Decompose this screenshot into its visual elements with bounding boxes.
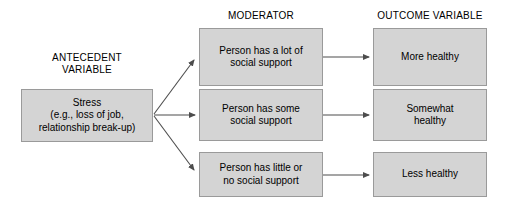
arrow-stress-to-moderator-1 bbox=[154, 60, 194, 114]
box-moderator-low-support[interactable]: Person has little or no social support bbox=[199, 152, 323, 197]
header-moderator: MODERATOR bbox=[199, 10, 323, 22]
box-moderator-some-support[interactable]: Person has some social support bbox=[199, 89, 323, 141]
diagram-canvas: ANTECEDENT VARIABLE MODERATOR OUTCOME VA… bbox=[0, 0, 512, 218]
header-outcome-variable: OUTCOME VARIABLE bbox=[372, 10, 488, 22]
box-antecedent-stress[interactable]: Stress (e.g., loss of job, relationship … bbox=[21, 89, 153, 142]
header-antecedent-variable: ANTECEDENT VARIABLE bbox=[21, 52, 153, 76]
box-moderator-high-support[interactable]: Person has a lot of social support bbox=[199, 28, 323, 86]
box-outcome-more-healthy[interactable]: More healthy bbox=[373, 28, 487, 86]
box-outcome-less-healthy[interactable]: Less healthy bbox=[373, 152, 487, 197]
arrow-stress-to-moderator-3 bbox=[154, 116, 194, 170]
box-outcome-somewhat-healthy[interactable]: Somewhat healthy bbox=[373, 89, 487, 141]
